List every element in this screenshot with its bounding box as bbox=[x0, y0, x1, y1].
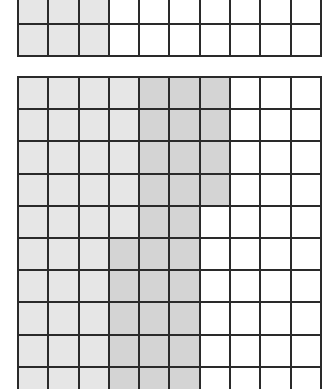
grid-cell-dark bbox=[109, 270, 139, 302]
grid-cell-dark bbox=[139, 238, 169, 270]
grid-cell-white bbox=[230, 174, 260, 206]
grid-cell-dark bbox=[139, 109, 169, 141]
grid-cell-light bbox=[18, 77, 48, 109]
grid-cell-light bbox=[48, 109, 78, 141]
grid-cell-white bbox=[291, 302, 321, 334]
grid-cell-white bbox=[291, 174, 321, 206]
grid-cell-light bbox=[48, 174, 78, 206]
grid-cell-light bbox=[79, 174, 109, 206]
grid-cell-light bbox=[79, 141, 109, 173]
grid-cell-white bbox=[200, 206, 230, 238]
grid-cell-white bbox=[260, 24, 290, 56]
grid-cell-white bbox=[260, 270, 290, 302]
grid-row bbox=[18, 0, 321, 24]
grid-cell-white bbox=[291, 141, 321, 173]
grid-cell-light bbox=[48, 238, 78, 270]
grid-cell-white bbox=[291, 77, 321, 109]
grid-cell-white bbox=[260, 141, 290, 173]
grid-cell-white bbox=[139, 24, 169, 56]
grid-cell-light bbox=[79, 302, 109, 334]
grid-cell-white bbox=[169, 0, 199, 24]
grid-cell-white bbox=[260, 302, 290, 334]
grid-row bbox=[18, 302, 321, 334]
grid-cell-dark bbox=[169, 367, 199, 389]
grid-cell-light bbox=[109, 174, 139, 206]
grid-cell-dark bbox=[139, 141, 169, 173]
grid-cell-light bbox=[109, 109, 139, 141]
grid-cell-white bbox=[260, 77, 290, 109]
grid-row bbox=[18, 24, 321, 56]
grid-cell-dark bbox=[169, 302, 199, 334]
hundred-grid-figure bbox=[0, 0, 322, 389]
grid-cell-light bbox=[18, 174, 48, 206]
grid-cell-light bbox=[109, 141, 139, 173]
grid-cell-white bbox=[139, 0, 169, 24]
top-hundred-grid bbox=[17, 0, 322, 57]
grid-cell-white bbox=[260, 367, 290, 389]
bottom-hundred-grid bbox=[17, 76, 322, 389]
grid-cell-dark bbox=[139, 302, 169, 334]
grid-cell-light bbox=[48, 335, 78, 367]
grid-cell-white bbox=[291, 270, 321, 302]
grid-cell-dark bbox=[200, 109, 230, 141]
grid-cell-white bbox=[200, 24, 230, 56]
grid-cell-white bbox=[230, 335, 260, 367]
grid-cell-white bbox=[260, 174, 290, 206]
grid-cell-light bbox=[109, 206, 139, 238]
grid-cell-white bbox=[200, 0, 230, 24]
grid-cell-light bbox=[79, 24, 109, 56]
grid-cell-dark bbox=[109, 335, 139, 367]
grid-cell-white bbox=[230, 206, 260, 238]
grid-cell-dark bbox=[169, 77, 199, 109]
grid-row bbox=[18, 270, 321, 302]
grid-cell-dark bbox=[169, 238, 199, 270]
grid-cell-white bbox=[291, 0, 321, 24]
grid-cell-white bbox=[200, 238, 230, 270]
grid-cell-white bbox=[200, 270, 230, 302]
grid-row bbox=[18, 141, 321, 173]
grid-cell-white bbox=[230, 141, 260, 173]
grid-row bbox=[18, 77, 321, 109]
grid-row bbox=[18, 238, 321, 270]
grid-cell-light bbox=[48, 141, 78, 173]
grid-cell-dark bbox=[200, 77, 230, 109]
grid-cell-white bbox=[200, 367, 230, 389]
grid-cell-dark bbox=[169, 206, 199, 238]
grid-cell-white bbox=[260, 109, 290, 141]
grid-cell-dark bbox=[139, 174, 169, 206]
grid-cell-dark bbox=[200, 174, 230, 206]
grid-cell-dark bbox=[109, 367, 139, 389]
grid-cell-light bbox=[48, 0, 78, 24]
grid-cell-light bbox=[48, 24, 78, 56]
grid-cell-light bbox=[18, 270, 48, 302]
grid-cell-white bbox=[230, 0, 260, 24]
grid-cell-white bbox=[109, 0, 139, 24]
grid-cell-light bbox=[18, 24, 48, 56]
grid-cell-light bbox=[18, 0, 48, 24]
grid-cell-white bbox=[291, 109, 321, 141]
grid-cell-white bbox=[230, 77, 260, 109]
grid-cell-light bbox=[79, 335, 109, 367]
grid-cell-dark bbox=[139, 206, 169, 238]
grid-cell-dark bbox=[169, 141, 199, 173]
grid-cell-white bbox=[260, 206, 290, 238]
grid-cell-dark bbox=[169, 270, 199, 302]
grid-cell-white bbox=[230, 302, 260, 334]
grid-cell-light bbox=[48, 270, 78, 302]
grid-cell-light bbox=[18, 302, 48, 334]
grid-cell-light bbox=[79, 270, 109, 302]
grid-cell-light bbox=[48, 302, 78, 334]
grid-cell-dark bbox=[139, 367, 169, 389]
grid-cell-white bbox=[169, 24, 199, 56]
grid-row bbox=[18, 109, 321, 141]
grid-cell-white bbox=[230, 109, 260, 141]
grid-cell-dark bbox=[139, 77, 169, 109]
grid-cell-white bbox=[260, 238, 290, 270]
grid-cell-white bbox=[291, 335, 321, 367]
grid-row bbox=[18, 206, 321, 238]
grid-cell-white bbox=[291, 238, 321, 270]
grid-cell-light bbox=[18, 367, 48, 389]
grid-cell-light bbox=[79, 238, 109, 270]
grid-cell-light bbox=[79, 109, 109, 141]
grid-cell-white bbox=[230, 367, 260, 389]
